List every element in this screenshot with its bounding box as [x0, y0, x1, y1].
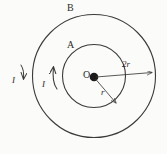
radius-2r-arrow [96, 73, 152, 78]
label-radius-2r: 2r [122, 60, 130, 69]
label-center-O: O [83, 70, 90, 80]
label-current-inner: I [42, 80, 45, 89]
physics-diagram-figure: B A O I I r 2r [0, 0, 167, 154]
label-current-outer: I [12, 76, 15, 85]
label-radius-r: r [101, 88, 105, 97]
label-region-B: B [67, 3, 74, 13]
label-region-A: A [67, 40, 74, 50]
radius-r-arrow [96, 79, 117, 103]
current-outer-arrow [21, 65, 24, 79]
current-inner-arrow [53, 67, 57, 89]
